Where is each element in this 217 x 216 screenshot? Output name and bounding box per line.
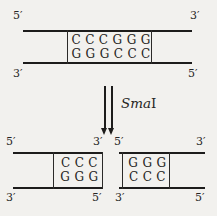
left-fragment-5prime-top-left-label: 5′ [6, 136, 16, 148]
top-duplex-5prime-bottom-right-label: 5′ [188, 68, 198, 80]
right-fragment-sequence-bottom-strand: CCC [122, 170, 173, 184]
right-fragment-3prime-bottom-left-label: 3′ [115, 192, 125, 204]
arrow-line-left [104, 86, 106, 128]
smai-restriction-digest-diagram: 5′ 3′ CCCGGG GGGCCC 3′ 5′ SmaI 5′ 3′ CCC… [0, 0, 217, 216]
right-fragment-5prime-bottom-right-label: 5′ [195, 192, 205, 204]
left-fragment-3prime-bottom-left-label: 3′ [6, 192, 16, 204]
left-fragment-3prime-top-right-label: 3′ [93, 136, 103, 148]
top-duplex-3prime-top-right-label: 3′ [190, 10, 200, 22]
left-fragment-sequence-bottom-strand: GGG [53, 170, 106, 184]
right-fragment-sequence-top-strand: GGG [122, 156, 173, 170]
enzyme-label-roman-part: I [151, 95, 156, 111]
top-duplex-5prime-top-left-label: 5′ [13, 10, 23, 22]
recognition-sequence-top-strand: CCCGGG [67, 33, 155, 47]
left-fragment-5prime-bottom-right-label: 5′ [92, 192, 102, 204]
arrowhead-right-icon [108, 128, 114, 135]
enzyme-label: SmaI [121, 95, 156, 111]
right-fragment-5prime-top-left-label: 5′ [114, 136, 124, 148]
arrow-line-right [111, 86, 113, 128]
enzyme-label-italic-part: Sma [121, 95, 151, 111]
right-fragment-3prime-top-right-label: 3′ [196, 136, 206, 148]
left-fragment-sequence-top-strand: CCC [53, 156, 106, 170]
top-duplex-3prime-bottom-left-label: 3′ [13, 68, 23, 80]
recognition-sequence-bottom-strand: GGGCCC [67, 47, 155, 61]
arrowhead-left-icon [101, 128, 107, 135]
